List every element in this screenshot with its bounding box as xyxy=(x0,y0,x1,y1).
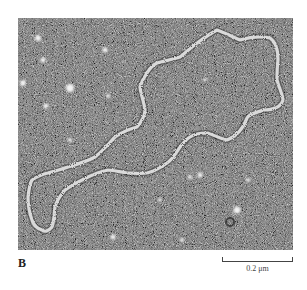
panel-label: B xyxy=(18,256,26,271)
figure: B 0.2 μm xyxy=(0,0,307,290)
scale-bar-label: 0.2 μm xyxy=(222,264,293,273)
electron-micrograph xyxy=(18,18,293,250)
scale-bar xyxy=(222,257,293,262)
